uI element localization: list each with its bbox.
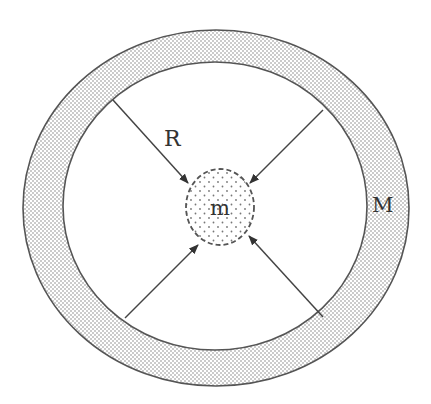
arrow-top-right [250,110,323,183]
radius-label: R [164,126,182,151]
shell-mass-label: M [372,193,394,217]
arrow-bottom-left [125,245,198,318]
arrow-bottom-right [249,236,323,317]
inner-mass-label: m [210,196,230,220]
shell-gravity-diagram: R m M [0,0,431,404]
